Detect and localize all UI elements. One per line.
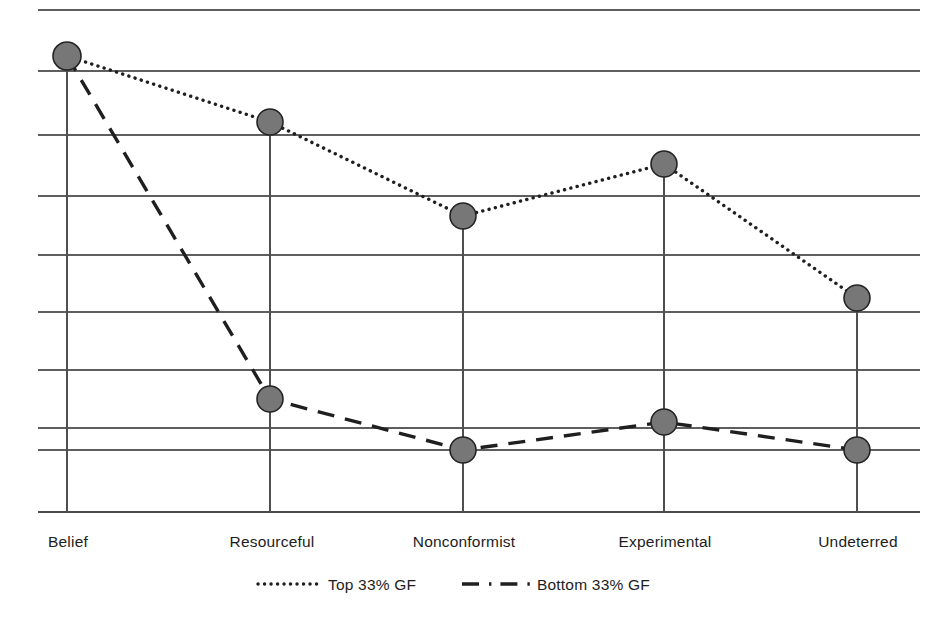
- legend-label-bottom-33-gf: Bottom 33% GF: [537, 576, 650, 593]
- x-tick-label-belief: Belief: [48, 533, 88, 550]
- data-point-marker: [844, 437, 870, 463]
- data-point-marker: [257, 109, 283, 135]
- data-point-marker: [844, 285, 870, 311]
- x-tick-label-nonconformist: Nonconformist: [413, 533, 516, 550]
- x-tick-label-undeterred: Undeterred: [818, 533, 898, 550]
- data-point-marker: [450, 437, 476, 463]
- data-point-marker: [53, 42, 81, 70]
- legend-label-top-33-gf: Top 33% GF: [328, 576, 416, 593]
- data-point-marker: [651, 151, 677, 177]
- data-point-marker: [257, 386, 283, 412]
- data-point-marker: [651, 409, 677, 435]
- data-point-marker: [450, 203, 476, 229]
- x-tick-label-resourceful: Resourceful: [230, 533, 315, 550]
- line-chart: Belief Resourceful Nonconformist Experim…: [0, 0, 952, 629]
- x-tick-label-experimental: Experimental: [619, 533, 712, 550]
- chart-figure: Belief Resourceful Nonconformist Experim…: [0, 0, 952, 629]
